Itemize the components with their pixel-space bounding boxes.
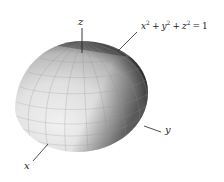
sphere-equation-label: x2+y2+z2=1 — [141, 20, 208, 31]
hemisphere-diagram: z y x x2+y2+z2=1 — [0, 0, 224, 182]
equation-pointer-line — [118, 32, 137, 51]
y-axis-line — [144, 126, 161, 132]
x-axis-label: x — [24, 161, 30, 171]
x-axis-line — [33, 144, 48, 161]
z-axis-label: z — [78, 17, 83, 27]
hemisphere-surface — [15, 40, 148, 152]
y-axis-label: y — [165, 125, 171, 135]
